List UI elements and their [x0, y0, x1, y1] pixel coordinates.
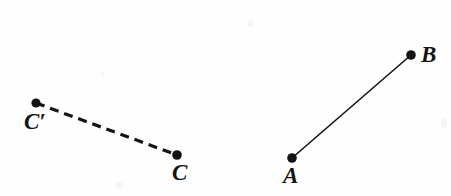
segment-a-to-b [292, 55, 411, 158]
point-label-b: B [421, 43, 436, 66]
figure-vector-layer [0, 0, 451, 196]
point-label-a: A [283, 164, 298, 187]
point-label-c-prime: C′ [24, 110, 46, 133]
point-dot-c-prime [31, 98, 40, 107]
point-dot-c [172, 150, 182, 160]
geometry-figure-canvas: C′ C A B [0, 0, 451, 196]
point-dot-a [287, 153, 297, 163]
point-label-c: C [172, 161, 187, 184]
point-dot-b [406, 50, 416, 60]
segment-c-prime-to-c [36, 103, 177, 155]
